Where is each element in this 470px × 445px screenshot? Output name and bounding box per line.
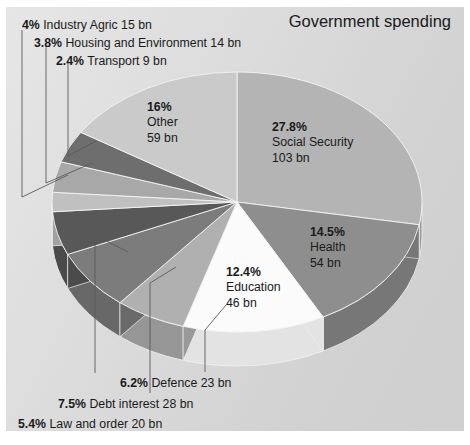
inside-label-other-pct: 16% <box>147 100 172 114</box>
inside-label-health-val: 54 bn <box>310 256 346 271</box>
callout-law-and-order: 5.4% Law and order 20 bn <box>18 417 162 432</box>
inside-label-social-security: 27.8% Social Security 103 bn <box>272 120 353 166</box>
pie-layers <box>52 72 422 366</box>
inside-label-other-name: Other <box>147 115 178 130</box>
callout-transport: 2.4% Transport 9 bn <box>56 54 167 69</box>
inside-label-education: 12.4% Education 46 bn <box>226 265 281 311</box>
callout-debt-interest-pct: 7.5% <box>58 397 86 411</box>
inside-label-education-val: 46 bn <box>226 296 281 311</box>
callout-housing-pct: 3.8% <box>34 36 62 50</box>
inside-label-social-security-pct: 27.8% <box>272 120 307 134</box>
callout-industry-agric: 4% Industry Agric 15 bn <box>22 18 152 33</box>
inside-label-health-name: Health <box>310 240 346 255</box>
callout-industry-agric-text: Industry Agric 15 bn <box>43 18 152 32</box>
callout-law-and-order-pct: 5.4% <box>18 417 46 431</box>
inside-label-other: 16% Other 59 bn <box>147 100 178 146</box>
inside-label-social-security-val: 103 bn <box>272 151 353 166</box>
callout-housing-text: Housing and Environment 14 bn <box>65 36 241 50</box>
callout-transport-pct: 2.4% <box>56 54 84 68</box>
inside-label-health: 14.5% Health 54 bn <box>310 225 346 271</box>
inside-label-health-pct: 14.5% <box>310 225 345 239</box>
callout-debt-interest-text: Debt interest 28 bn <box>89 397 193 411</box>
callout-law-and-order-text: Law and order 20 bn <box>49 417 162 431</box>
chart-canvas: Government spending 4% Industry Agric 15… <box>0 0 470 445</box>
inside-label-other-val: 59 bn <box>147 131 178 146</box>
inside-label-education-pct: 12.4% <box>226 265 261 279</box>
callout-defence-pct: 6.2% <box>120 376 148 390</box>
callout-transport-text: Transport 9 bn <box>87 54 167 68</box>
callout-defence-text: Defence 23 bn <box>151 376 231 390</box>
callout-industry-agric-pct: 4% <box>22 18 40 32</box>
page-title: Government spending <box>289 12 451 31</box>
inside-label-education-name: Education <box>226 280 281 295</box>
callout-housing: 3.8% Housing and Environment 14 bn <box>34 36 241 51</box>
inside-label-social-security-name: Social Security <box>272 135 353 150</box>
callout-debt-interest: 7.5% Debt interest 28 bn <box>58 397 193 412</box>
callout-defence: 6.2% Defence 23 bn <box>120 376 231 391</box>
